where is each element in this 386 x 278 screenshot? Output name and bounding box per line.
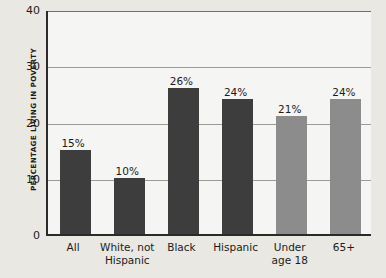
x-label-line: age 18 [254, 254, 326, 267]
y-axis-ticks: 010203040 [0, 11, 386, 236]
y-tick-label-40: 40 [4, 4, 40, 17]
x-label-line: Hispanic [91, 254, 163, 267]
poverty-bar-chart: PERCENTAGE LIVING IN POVERTY 010203040 1… [0, 0, 386, 278]
bar-value-4: 21% [260, 103, 320, 115]
y-tick-label-20: 20 [4, 117, 40, 130]
x-axis-label-5: 65+ [308, 241, 380, 254]
bar-value-1: 10% [97, 165, 157, 177]
bar-value-2: 26% [151, 75, 211, 87]
bar-value-0: 15% [43, 137, 103, 149]
bar-value-5: 24% [314, 86, 374, 98]
y-tick-label-30: 30 [4, 60, 40, 73]
y-tick-label-0: 0 [4, 229, 40, 242]
bar-value-3: 24% [206, 86, 266, 98]
y-tick-label-10: 10 [4, 173, 40, 186]
x-label-line: 65+ [308, 241, 380, 254]
